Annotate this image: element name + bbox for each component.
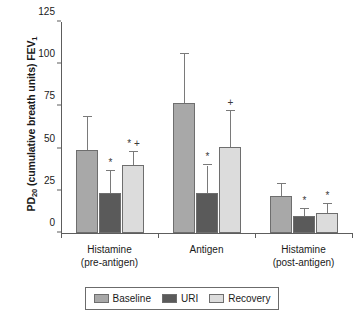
y-tick-label: 0 [49,217,61,228]
error-bar-cap [226,110,235,111]
plot-area: 0255075100125** +*+** [61,22,352,233]
bar-group: *+ [158,22,255,233]
significance-marker: * [326,191,330,201]
error-bar-cap [83,116,92,117]
significance-marker: + [228,98,234,108]
legend-swatch-recovery [209,294,224,303]
y-axis-title-sub-20: 20 [30,189,39,197]
y-axis-title-mid: (cumulative breath units) FEV [25,41,37,189]
x-category-label-line1: Antigen [190,244,224,257]
legend-item-uri[interactable]: URI [162,293,198,304]
y-tick-label: 100 [38,48,61,59]
error-bar [230,111,231,146]
error-bar [87,117,88,151]
x-category-label-line1: Histamine [273,244,335,257]
y-axis-title: PD20 (cumulative breath units) FEV1 [25,9,37,239]
bar-recovery[interactable] [219,147,241,233]
bar-group: ** + [61,22,158,233]
error-bar-cap [300,208,309,209]
x-category-label-line2: (pre-antigen) [81,257,138,270]
y-tick-label: 75 [44,90,61,101]
legend-item-recovery[interactable]: Recovery [209,293,270,304]
significance-marker: * [303,196,307,206]
significance-marker: * + [127,139,140,149]
y-axis-title-prefix: PD [25,197,37,211]
bar-baseline[interactable] [173,103,195,233]
bar-uri[interactable] [99,193,121,234]
error-bar-cap [277,183,286,184]
legend-item-baseline[interactable]: Baseline [94,293,151,304]
x-category-label: Histamine(pre-antigen) [81,244,138,269]
error-bar [304,209,305,216]
error-bar [110,171,111,193]
error-bar [133,152,134,166]
legend-swatch-baseline [94,294,109,303]
x-category-label: Histamine(post-antigen) [273,244,335,269]
x-category-label: Antigen [190,244,224,257]
error-bar-cap [106,170,115,171]
significance-marker: * [109,158,113,168]
bar-recovery[interactable] [122,165,144,233]
significance-marker: * [206,152,210,162]
bar-recovery[interactable] [316,213,338,233]
y-tick-label: 25 [44,174,61,185]
error-bar-cap [129,151,138,152]
error-bar [327,204,328,212]
x-tick-mark [352,233,353,238]
chart-legend: BaselineURIRecovery [85,287,279,310]
chart-figure: PD20 (cumulative breath units) FEV1 0255… [0,0,363,319]
error-bar [281,184,282,196]
x-category-label-line2: (post-antigen) [273,257,335,270]
bar-baseline[interactable] [270,196,292,233]
legend-swatch-uri [162,294,177,303]
x-axis-line [61,233,353,234]
y-tick-label: 125 [38,6,61,17]
legend-label: Baseline [113,293,151,304]
error-bar [207,166,208,193]
bar-baseline[interactable] [76,150,98,233]
error-bar-cap [323,203,332,204]
x-tick-mark [255,233,256,238]
bar-uri[interactable] [196,193,218,234]
error-bar [184,54,185,103]
legend-label: URI [181,293,198,304]
x-category-label-line1: Histamine [81,244,138,257]
bar-group: ** [255,22,352,233]
x-tick-mark [158,233,159,238]
legend-label: Recovery [228,293,270,304]
y-tick-label: 50 [44,132,61,143]
y-axis-title-sub-1: 1 [30,37,39,41]
error-bar-cap [180,53,189,54]
error-bar-cap [203,164,212,165]
bar-uri[interactable] [293,216,315,233]
x-tick-mark [61,233,62,238]
